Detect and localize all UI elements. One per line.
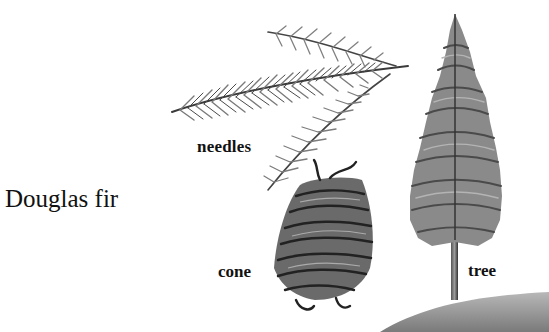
illustration-canvas	[0, 0, 549, 332]
needles-label: needles	[197, 138, 251, 155]
cone-illustration	[274, 160, 373, 309]
tree-illustration	[380, 14, 549, 332]
tree-label: tree	[468, 262, 496, 279]
needles-branch-illustration	[172, 26, 408, 190]
cone-label: cone	[218, 263, 251, 280]
